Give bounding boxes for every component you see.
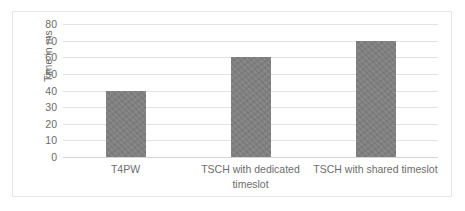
bar-slot bbox=[313, 24, 438, 157]
x-category-label: TSCH with dedicated timeslot bbox=[188, 162, 313, 192]
bars-group bbox=[63, 24, 438, 157]
y-tick-label-0: 0 bbox=[27, 152, 57, 163]
bar-slot bbox=[63, 24, 188, 157]
x-category-label: T4PW bbox=[63, 162, 188, 177]
bar-slot bbox=[188, 24, 313, 157]
x-category-label: TSCH with shared timeslot bbox=[313, 162, 438, 177]
y-tick-label-40: 40 bbox=[27, 85, 57, 96]
bar[interactable] bbox=[231, 57, 271, 157]
x-axis-category-labels: T4PWTSCH with dedicated timeslotTSCH wit… bbox=[63, 162, 438, 196]
y-tick-label-30: 30 bbox=[27, 102, 57, 113]
y-tick-label-60: 60 bbox=[27, 52, 57, 63]
plot-area: 01020304050607080 bbox=[63, 24, 438, 157]
bar[interactable] bbox=[106, 91, 146, 158]
y-tick-label-20: 20 bbox=[27, 119, 57, 130]
y-tick-label-70: 70 bbox=[27, 35, 57, 46]
bar[interactable] bbox=[356, 41, 396, 157]
gridline-0 bbox=[63, 157, 438, 158]
y-tick-label-50: 50 bbox=[27, 69, 57, 80]
y-tick-label-80: 80 bbox=[27, 19, 57, 30]
y-tick-label-10: 10 bbox=[27, 135, 57, 146]
chart-frame: Time in ms 01020304050607080 T4PWTSCH wi… bbox=[12, 11, 452, 197]
